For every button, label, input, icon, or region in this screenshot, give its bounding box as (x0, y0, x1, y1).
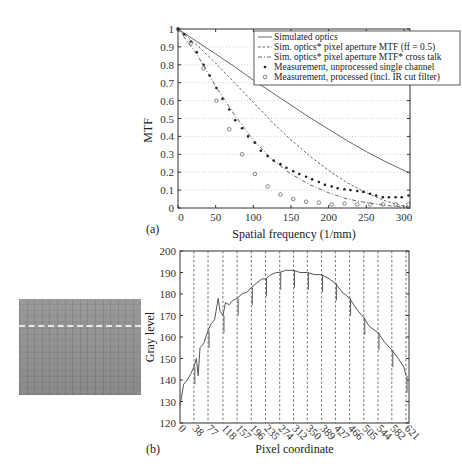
measurement-dot (394, 196, 397, 199)
measurement-dot (388, 196, 391, 199)
measurement-dot (279, 163, 282, 166)
measurement-dot (234, 119, 237, 122)
measurement-dot (356, 190, 359, 193)
measurement-dot (208, 74, 211, 77)
measurement-dot (177, 28, 180, 31)
measurement-dot (241, 127, 244, 130)
y-tick-label: 140 (160, 374, 177, 386)
y-tick-label: 0.7 (160, 77, 174, 89)
y-tick-label: 1 (169, 23, 175, 35)
y-tick-label: 0 (169, 202, 175, 214)
y-tick-label: 180 (160, 288, 177, 300)
measurement-dot (266, 155, 269, 158)
measurement-dot (285, 166, 288, 169)
measurement-dot (400, 196, 403, 199)
measurement-dot (292, 170, 295, 173)
measurement-dot (318, 181, 321, 184)
measurement-circle (304, 200, 308, 204)
figure-canvas: 00.10.20.30.40.50.60.70.80.9105010015020… (0, 0, 462, 474)
measurement-dot (324, 183, 327, 186)
measurement-dot (305, 175, 308, 178)
y-tick-label: 200 (160, 245, 177, 257)
measurement-dot (336, 187, 339, 190)
y-tick-label: 0.8 (160, 59, 174, 71)
x-tick-label: 250 (358, 211, 375, 223)
measurement-dot (272, 159, 275, 162)
y-axis-label: Gray level (143, 311, 157, 362)
x-tick-label: 621 (403, 422, 423, 442)
measurement-dot (221, 98, 224, 101)
measurement-circle (355, 203, 359, 207)
y-tick-label: 0.2 (160, 166, 174, 178)
legend: Simulated opticsSim. optics* pixel apert… (254, 31, 460, 85)
measurement-dot (260, 149, 263, 152)
y-tick-label: 0.4 (160, 130, 174, 142)
x-tick-label: 50 (210, 211, 222, 223)
y-tick-label: 190 (160, 267, 177, 279)
measurement-circle (330, 203, 334, 207)
y-tick-label: 0.9 (160, 41, 174, 53)
measurement-dot (247, 135, 250, 138)
measurement-circle (317, 201, 321, 205)
measurement-dot (362, 191, 365, 194)
measurement-dot (343, 188, 346, 191)
measurement-dot (228, 108, 231, 111)
x-tick-label: 300 (396, 211, 413, 223)
measurement-dot (202, 64, 205, 67)
measurement-circle (253, 172, 257, 176)
x-axis-label: Pixel coordinate (255, 442, 333, 456)
y-tick-label: 0.1 (160, 184, 174, 196)
y-tick-label: 120 (160, 417, 177, 429)
measurement-circle (291, 197, 295, 201)
measurement-dot (349, 189, 352, 192)
y-tick-label: 0.6 (160, 95, 174, 107)
x-tick-label: 200 (320, 211, 337, 223)
x-axis-label: Spatial frequency (1/mm) (232, 227, 355, 241)
measurement-dot (183, 33, 186, 36)
x-tick-label: 100 (245, 211, 262, 223)
measurement-dot (330, 185, 333, 188)
legend-item: Measurement, unprocessed single channel (274, 62, 435, 72)
measurement-dot (215, 87, 218, 90)
y-axis-label: MTF (141, 118, 155, 143)
x-tick-label: 77 (205, 422, 222, 439)
y-tick-label: 0.5 (160, 113, 174, 125)
y-tick-label: 130 (160, 396, 177, 408)
measurement-dot (407, 194, 410, 197)
measurement-circle (240, 153, 244, 157)
x-tick-label: 0 (177, 422, 190, 435)
y-tick-label: 170 (160, 310, 177, 322)
measurement-dot (254, 141, 257, 144)
y-tick-label: 0.3 (160, 148, 174, 160)
measurement-dot (196, 51, 199, 54)
measurement-dot (382, 196, 385, 199)
panel-label-a: (a) (146, 222, 159, 236)
y-tick-label: 150 (160, 353, 177, 365)
measurement-circle (343, 202, 347, 206)
x-tick-label: 150 (283, 211, 300, 223)
mtf-chart: 00.10.20.30.40.50.60.70.80.9105010015020… (141, 23, 460, 241)
measurement-circle (227, 127, 231, 131)
y-tick-label: 160 (160, 331, 177, 343)
gray-level-profile-line (180, 270, 406, 405)
legend-item: Sim. optics* pixel aperture MTF* cross t… (274, 52, 442, 62)
x-tick-label: 0 (178, 211, 184, 223)
measurement-dot (369, 192, 372, 195)
measurement-circle (279, 193, 283, 197)
measurement-dot (298, 173, 301, 176)
panel-label-b: (b) (146, 442, 160, 456)
measurement-dot (375, 194, 378, 197)
gray-level-chart: 1201301401501601701801902000387711815719… (143, 245, 423, 456)
legend-item: Simulated optics (274, 32, 338, 42)
measurement-circle (266, 185, 270, 189)
measurement-dot (311, 178, 314, 181)
legend-item: Measurement, processed (incl. IR cut fil… (274, 72, 440, 83)
